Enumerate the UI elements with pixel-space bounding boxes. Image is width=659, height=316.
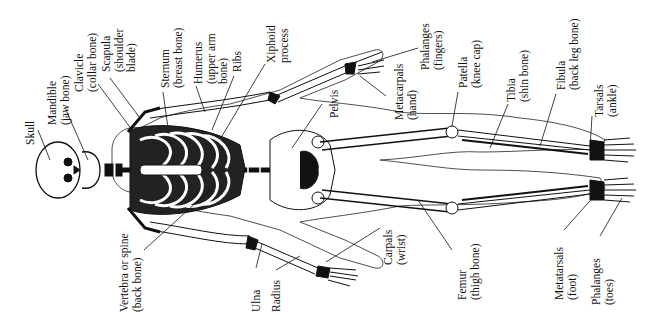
label-tarsals: Tarsals(ankle) <box>593 84 618 117</box>
label-line: (jaw bone) <box>59 76 72 126</box>
label-fibula: Fibula(back leg bone) <box>555 18 580 90</box>
label-line: Phalanges <box>419 23 432 70</box>
label-line: Pelvis <box>328 90 341 118</box>
label-line: (knee cap) <box>470 40 483 88</box>
label-tibia: Tibia(shin bone) <box>505 50 530 102</box>
label-line: (breast bone) <box>172 28 185 88</box>
label-scapula: Scapula(shoulderblade) <box>100 29 138 72</box>
label-line: Scapula <box>100 29 113 72</box>
label-metacarpals: Metacarpals(hand) <box>393 64 418 120</box>
label-line: Fibula <box>555 18 568 90</box>
label-patella: Patella(knee cap) <box>457 40 482 88</box>
label-metatarsals: Metatarsals(foot) <box>553 247 578 300</box>
label-line: blade) <box>125 29 138 72</box>
label-xiphoid: Xiphoidprocess <box>265 25 290 63</box>
label-pelvis: Pelvis <box>328 90 341 118</box>
label-line: Metacarpals <box>393 64 406 120</box>
label-line: Radius <box>270 280 283 312</box>
label-line: Patella <box>457 40 470 88</box>
label-line: (hand) <box>406 64 419 120</box>
label-line: (toes) <box>603 258 616 305</box>
label-line: Ulna <box>250 290 263 312</box>
label-ulna: Ulna <box>250 290 263 312</box>
label-line: (upper arm <box>205 33 218 84</box>
label-line: Humerus <box>192 33 205 84</box>
label-mandible: Mandible(jaw bone) <box>46 76 71 126</box>
label-line: Ribs <box>231 51 244 72</box>
label-line: (collar bone) <box>86 33 99 92</box>
label-line: Sternum <box>159 28 172 88</box>
label-ribs: Ribs <box>231 51 244 72</box>
label-line: (wrist) <box>395 230 408 265</box>
label-line: Skull <box>24 121 37 145</box>
label-line: (foot) <box>566 247 579 300</box>
label-line: Mandible <box>46 76 59 126</box>
label-vertebra: Vertebra or spine(back bone) <box>118 233 143 312</box>
label-line: Femur <box>456 243 469 300</box>
skeleton-diagram: Skull Mandible(jaw bone) Clavicle(collar… <box>0 0 659 316</box>
label-line: (shoulder <box>113 29 126 72</box>
label-line: Xiphoid <box>265 25 278 63</box>
label-line: (fingers) <box>432 23 445 70</box>
label-radius: Radius <box>270 280 283 312</box>
label-line: process <box>278 25 291 63</box>
label-line: Tibia <box>505 50 518 102</box>
label-line: bone) <box>217 33 230 84</box>
label-line: Vertebra or spine <box>118 233 131 312</box>
label-line: Tarsals <box>593 84 606 117</box>
label-clavicle: Clavicle(collar bone) <box>73 33 98 92</box>
label-phalanges-toes: Phalanges(toes) <box>590 258 615 305</box>
label-femur: Femur(thigh bone) <box>456 243 481 300</box>
label-sternum: Sternum(breast bone) <box>159 28 184 88</box>
label-line: (thigh bone) <box>469 243 482 300</box>
label-line: (ankle) <box>606 84 619 117</box>
label-line: Clavicle <box>73 33 86 92</box>
label-line: (back leg bone) <box>568 18 581 90</box>
label-line: Metatarsals <box>553 247 566 300</box>
label-line: (back bone) <box>131 233 144 312</box>
label-skull: Skull <box>24 121 37 145</box>
label-humerus: Humerus(upper armbone) <box>192 33 230 84</box>
label-carpals: Carpals(wrist) <box>382 230 407 265</box>
label-line: Carpals <box>382 230 395 265</box>
label-phalanges-fingers: Phalanges(fingers) <box>419 23 444 70</box>
label-line: (shin bone) <box>518 50 531 102</box>
label-line: Phalanges <box>590 258 603 305</box>
